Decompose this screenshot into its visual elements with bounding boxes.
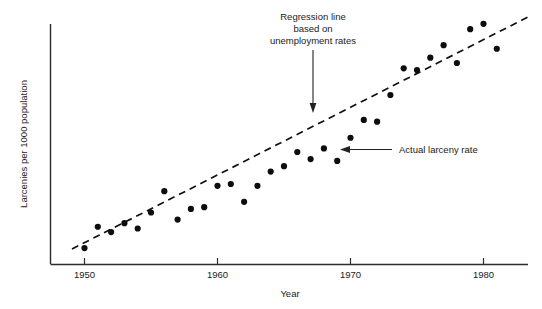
actual-rate-annotation-label: Actual larceny rate xyxy=(399,144,478,155)
data-point xyxy=(148,209,154,215)
data-point xyxy=(361,117,367,123)
regression-annotation-line-1: Regression line xyxy=(280,11,345,22)
regression-annotation-line-3: unemployment rates xyxy=(270,35,356,46)
data-point xyxy=(401,65,407,71)
data-point xyxy=(175,217,181,223)
x-tick-label-1970: 1970 xyxy=(340,269,361,280)
data-point xyxy=(268,168,274,174)
data-point xyxy=(494,46,500,52)
data-point xyxy=(108,229,114,235)
x-axis-title: Year xyxy=(280,288,299,299)
scatter-points-group xyxy=(81,21,500,251)
data-point xyxy=(414,67,420,73)
data-point xyxy=(135,225,141,231)
chart-figure: 1950 1960 1970 1980 Year Larcenies per 1… xyxy=(0,0,542,309)
data-point xyxy=(254,183,260,189)
actual-rate-annotation-arrowhead xyxy=(340,146,350,153)
x-tick-label-1980: 1980 xyxy=(473,269,494,280)
data-point xyxy=(387,92,393,98)
data-point xyxy=(454,60,460,66)
data-point xyxy=(427,55,433,61)
data-point xyxy=(441,42,447,48)
regression-annotation-arrowhead xyxy=(310,103,317,113)
scatter-plot-svg: 1950 1960 1970 1980 Year Larcenies per 1… xyxy=(0,0,542,309)
data-point xyxy=(95,224,101,230)
data-point xyxy=(188,206,194,212)
data-point xyxy=(241,199,247,205)
data-point xyxy=(374,119,380,125)
data-point xyxy=(214,183,220,189)
data-point xyxy=(334,158,340,164)
data-point xyxy=(281,163,287,169)
regression-line-annotation: Regression line based on unemployment ra… xyxy=(270,11,356,113)
x-tick-label-1950: 1950 xyxy=(74,269,95,280)
data-point xyxy=(467,26,473,32)
data-point xyxy=(321,145,327,151)
actual-larceny-rate-annotation: Actual larceny rate xyxy=(340,144,478,155)
data-point xyxy=(347,135,353,141)
data-point xyxy=(81,245,87,251)
data-point xyxy=(121,220,127,226)
data-point xyxy=(308,156,314,162)
x-tick-label-1960: 1960 xyxy=(207,269,228,280)
data-point xyxy=(161,188,167,194)
data-point xyxy=(480,21,486,27)
data-point xyxy=(201,204,207,210)
regression-annotation-line-2: based on xyxy=(293,23,332,34)
data-point xyxy=(228,181,234,187)
data-point xyxy=(294,149,300,155)
y-axis-title: Larcenies per 1000 population xyxy=(18,80,29,208)
regression-line xyxy=(72,17,528,249)
